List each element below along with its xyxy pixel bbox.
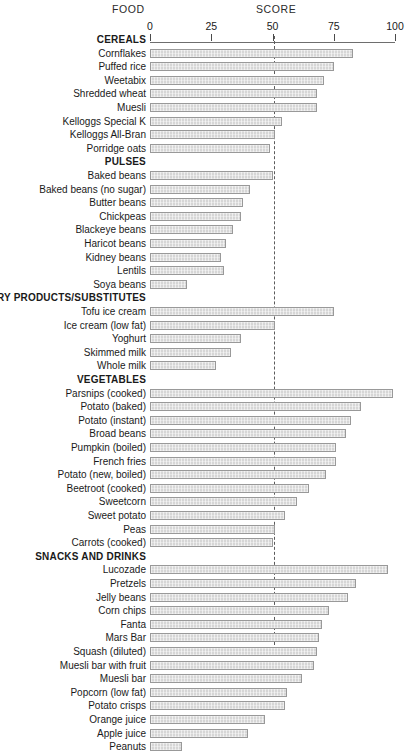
bar-category-label: Lentils [117,265,146,276]
bar [150,144,270,153]
bar [150,307,334,316]
bar-category-label: Skimmed milk [84,347,146,358]
chart-row: Peanuts [0,741,415,755]
chart-row: Cornflakes [0,48,415,62]
bar [150,470,326,479]
bar [150,130,275,139]
bar-category-label: Pretzels [110,578,146,589]
chart-row: Potato (instant) [0,415,415,429]
bar-category-label: Cornflakes [98,48,146,59]
chart-row: Peas [0,524,415,538]
x-axis-tick-label: 25 [205,20,217,32]
chart-row: Apple juice [0,728,415,742]
bar-category-label: Squash (diluted) [73,646,146,657]
bar-category-label: Beetroot (cooked) [67,483,147,494]
bar-category-label: Haricot beans [84,238,146,249]
bar [150,348,231,357]
bar [150,729,248,738]
chart-row: French fries [0,456,415,470]
bar-category-label: Lucozade [103,564,146,575]
bar-category-label: Muesli bar with fruit [60,660,146,671]
bar [150,117,282,126]
section-header-row: VEGETABLES [0,374,415,388]
bar [150,253,221,262]
chart-row: Tofu ice cream [0,306,415,320]
section-header-row: DAIRY PRODUCTS/SUBSTITUTES [0,292,415,306]
bar [150,579,356,588]
bar-category-label: Soya beans [93,279,146,290]
bar [150,606,329,615]
chart-row: Kelloggs All-Bran [0,129,415,143]
chart-row: Potato (baked) [0,401,415,415]
bar-category-label: Kidney beans [85,252,146,263]
bar-category-label: Baked beans (no sugar) [39,184,146,195]
chart-row: Weetabix [0,75,415,89]
bar [150,647,317,656]
bar-category-label: Muesli bar [100,673,146,684]
chart-row: Soya beans [0,279,415,293]
bar-category-label: Orange juice [89,714,146,725]
chart-row: Broad beans [0,428,415,442]
bar [150,416,351,425]
bar [150,321,275,330]
bar-category-label: Popcorn (low fat) [70,687,146,698]
bar [150,715,265,724]
bar-category-label: Potato (instant) [78,415,146,426]
bar [150,674,302,683]
bar-category-label: French fries [93,456,146,467]
bar [150,212,241,221]
bar [150,661,314,670]
bar-category-label: Baked beans [88,170,146,181]
section-header-label: DAIRY PRODUCTS/SUBSTITUTES [0,292,146,303]
chart-row: Beetroot (cooked) [0,483,415,497]
chart-row: Whole milk [0,360,415,374]
bar-category-label: Blackeye beans [75,224,146,235]
column-header-score: SCORE [256,3,296,15]
section-header-label: PULSES [105,156,146,167]
chart-row: Fanta [0,619,415,633]
chart-row: Yoghurt [0,333,415,347]
bar [150,742,182,751]
bar [150,198,243,207]
chart-row: Lucozade [0,564,415,578]
x-axis-tick-label: 0 [147,20,153,32]
bar-category-label: Pumpkin (boiled) [71,442,146,453]
chart-row: Muesli bar [0,673,415,687]
bar-category-label: Broad beans [89,428,146,439]
chart-row: Muesli [0,102,415,116]
bar-category-label: Yoghurt [112,333,146,344]
section-header-label: CEREALS [97,34,146,45]
bar-category-label: Mars Bar [105,632,146,643]
chart-row: Baked beans [0,170,415,184]
chart-row: Carrots (cooked) [0,537,415,551]
bar-category-label: Kelloggs All-Bran [70,129,146,140]
chart-row: Sweetcorn [0,496,415,510]
chart-row: Kelloggs Special K [0,116,415,130]
bar [150,497,297,506]
chart-row: Lentils [0,265,415,279]
bar-category-label: Ice cream (low fat) [64,320,146,331]
chart-row: Shredded wheat [0,88,415,102]
bar-category-label: Sweetcorn [99,496,146,507]
bar [150,525,275,534]
bar [150,484,309,493]
chart-row: Potato (new, boiled) [0,469,415,483]
bar [150,701,285,710]
bar-category-label: Parsnips (cooked) [65,388,146,399]
bar [150,225,233,234]
chart-row: Skimmed milk [0,347,415,361]
bar-category-label: Potato crisps [88,700,146,711]
bar-category-label: Sweet potato [88,510,146,521]
bar-category-label: Jelly beans [96,592,146,603]
chart-row: Chickpeas [0,211,415,225]
bar [150,511,285,520]
bar-category-label: Fanta [120,619,146,630]
bar [150,389,393,398]
bar [150,62,334,71]
section-header-row: CEREALS [0,34,415,48]
bar [150,89,317,98]
section-header-row: PULSES [0,156,415,170]
column-header-food: FOOD [112,3,145,15]
bar [150,103,317,112]
bar-category-label: Peanuts [109,741,146,752]
